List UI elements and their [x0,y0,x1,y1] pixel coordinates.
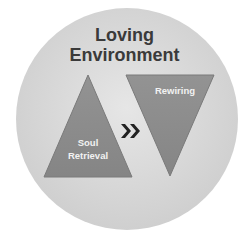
label-line-1: Soul [58,136,118,149]
rewiring-label: Rewiring [145,84,205,97]
title-line-2: Environment [0,45,249,65]
label-line-2: Retrieval [58,149,118,162]
soul-retrieval-label: Soul Retrieval [58,136,118,162]
title-line-1: Loving [0,25,249,45]
